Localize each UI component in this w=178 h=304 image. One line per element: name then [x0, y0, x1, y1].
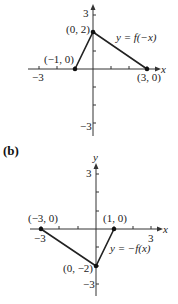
- chart-b-point-label-0-neg2: (0, −2): [63, 262, 93, 275]
- chart-a-tick-label-y-3: 3: [83, 7, 89, 19]
- chart-b-point-label-1-0: (1, 0): [103, 212, 127, 225]
- chart-a-tick-label-x-neg3: −3: [32, 71, 44, 83]
- chart-a: 3 −3 −3 (0, 2) (−1, 0) (3, 0) y = f(−x) …: [28, 4, 166, 136]
- chart-b-curve-label: y = −f(x): [109, 242, 151, 255]
- chart-a-point-label-neg1-0: (−1, 0): [44, 53, 74, 66]
- chart-b-tick-label-x-neg3: −3: [34, 232, 46, 244]
- chart-b-point-1-0: [112, 227, 117, 232]
- chart-b-point-neg3-0: [39, 227, 44, 232]
- chart-a-y-arrow-icon: [91, 4, 96, 10]
- chart-b-tick-label-y-neg3: −3: [83, 278, 95, 290]
- chart-a-x-axis-label: x: [160, 63, 166, 75]
- chart-b-point-label-neg3-0: (−3, 0): [28, 212, 58, 225]
- chart-b-y-arrow-icon: [94, 163, 99, 169]
- chart-b-x-axis-label: x: [162, 223, 168, 235]
- chart-a-point-label-0-2: (0, 2): [66, 23, 90, 36]
- chart-b-y-axis-label: y: [92, 151, 98, 163]
- chart-a-point-neg1-0: [73, 67, 78, 72]
- chart-a-point-label-3-0: (3, 0): [137, 71, 161, 84]
- figure: 3 −3 −3 (0, 2) (−1, 0) (3, 0) y = f(−x) …: [0, 0, 178, 304]
- chart-b-tick-label-y-3: 3: [86, 167, 92, 179]
- chart-b: y 3 −3 −3 3 (−3, 0) (1, 0) (0, −2) y = −…: [28, 151, 168, 296]
- chart-a-point-0-2: [91, 30, 96, 35]
- chart-b-point-0-neg2: [94, 264, 99, 269]
- chart-b-curve: [41, 229, 114, 266]
- panel-label-b: (b): [3, 143, 19, 158]
- chart-a-tick-label-y-neg3: −3: [80, 120, 92, 132]
- chart-a-curve-label: y = f(−x): [115, 31, 157, 44]
